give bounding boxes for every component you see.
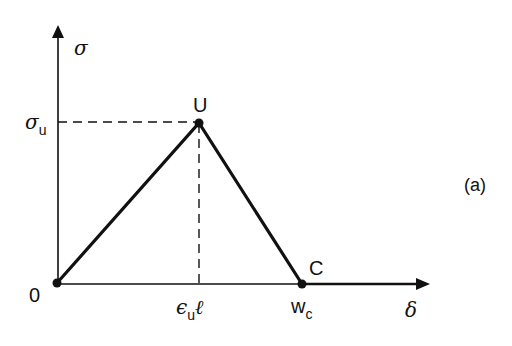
sigma-u-symbol: σ <box>25 110 39 134</box>
wc-subscript: c <box>305 306 312 322</box>
sigma-u-tick-label: σu <box>25 112 46 132</box>
panel-label: (a) <box>464 176 486 194</box>
point-C-label: C <box>309 258 323 278</box>
epsilon-symbol: ϵ <box>176 295 187 319</box>
sigma-u-subscript: u <box>39 122 47 138</box>
epsilon-subscript: u <box>187 307 195 323</box>
epsilon-u-ell-tick-label: ϵuℓ <box>176 297 203 317</box>
y-axis-label: σ <box>74 38 88 58</box>
softening-curve <box>57 123 302 284</box>
point-U <box>195 119 204 128</box>
point-origin <box>53 279 62 288</box>
x-axis-arrow-icon <box>416 278 430 290</box>
y-axis-arrow-icon <box>52 25 64 38</box>
point-C <box>298 280 307 289</box>
x-axis-label: δ <box>405 300 417 320</box>
w-symbol: w <box>291 295 305 317</box>
point-origin-label: 0 <box>29 285 40 305</box>
ell-symbol: ℓ <box>195 295 203 319</box>
point-U-label: U <box>193 95 207 115</box>
wc-tick-label: wc <box>291 296 312 316</box>
